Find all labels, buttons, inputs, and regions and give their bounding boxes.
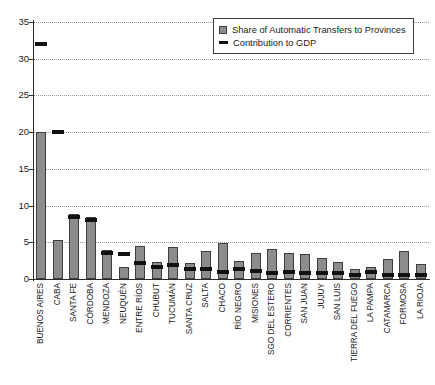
x-axis-tick-label: LA PAMPA bbox=[367, 283, 376, 322]
bar-group bbox=[383, 22, 393, 279]
bar bbox=[86, 217, 96, 279]
x-axis-tick: JUJUY bbox=[314, 281, 331, 385]
y-axis-tick: 20 bbox=[0, 132, 29, 133]
gdp-marker bbox=[365, 270, 377, 274]
x-axis-tick-label: BUENOS AIRES bbox=[37, 283, 46, 344]
x-axis-tick-label: SANTA CRUZ bbox=[186, 283, 195, 334]
x-axis-tick-label: MISIONES bbox=[252, 283, 261, 323]
x-axis-tick: LA RIOJA bbox=[413, 281, 430, 385]
y-axis-tick: 30 bbox=[0, 59, 29, 60]
bar-group bbox=[86, 22, 96, 279]
x-axis-tick: CHUBUT bbox=[149, 281, 166, 385]
gdp-marker bbox=[167, 263, 179, 267]
gdp-marker bbox=[184, 267, 196, 271]
x-axis-tick: SAN LUIS bbox=[330, 281, 347, 385]
x-axis-tick: MENDOZA bbox=[99, 281, 116, 385]
x-axis-tick: CHACO bbox=[215, 281, 232, 385]
bar-group bbox=[168, 22, 178, 279]
y-axis-tick-label: 15 bbox=[18, 164, 29, 174]
bar-group bbox=[201, 22, 211, 279]
y-axis-tick-label: 30 bbox=[18, 54, 29, 64]
legend-bar-swatch-icon bbox=[219, 26, 227, 34]
x-axis-tick-label: CHACO bbox=[219, 283, 228, 313]
x-axis-tick-label: NEUQUÉN bbox=[120, 283, 129, 324]
bar-group bbox=[366, 22, 376, 279]
y-axis-tick-label: 35 bbox=[18, 17, 29, 27]
gdp-marker bbox=[299, 271, 311, 275]
gdp-marker bbox=[382, 273, 394, 277]
bar-group bbox=[102, 22, 112, 279]
bar bbox=[251, 253, 261, 279]
bar-group bbox=[36, 22, 46, 279]
gdp-marker bbox=[415, 273, 427, 277]
bar-group bbox=[185, 22, 195, 279]
bar-group bbox=[69, 22, 79, 279]
x-axis-tick: CORRIENTES bbox=[281, 281, 298, 385]
gdp-marker bbox=[398, 273, 410, 277]
y-axis-tick: 0 bbox=[0, 279, 29, 280]
x-axis-tick-label: SALTA bbox=[202, 283, 211, 308]
x-axis-tick: TUCUMÁN bbox=[165, 281, 182, 385]
x-axis-tick: CABA bbox=[50, 281, 67, 385]
bar-group bbox=[119, 22, 129, 279]
bar-group bbox=[284, 22, 294, 279]
bar-group bbox=[53, 22, 63, 279]
gdp-marker bbox=[35, 42, 47, 46]
gdp-marker bbox=[266, 271, 278, 275]
gdp-marker bbox=[85, 218, 97, 222]
y-axis-tick-label: 25 bbox=[18, 90, 29, 100]
gdp-marker bbox=[283, 270, 295, 274]
bar bbox=[53, 240, 63, 279]
x-axis-tick-label: SAN JUAN bbox=[301, 283, 310, 324]
y-axis-tick: 25 bbox=[0, 95, 29, 96]
y-axis-tick: 35 bbox=[0, 22, 29, 23]
gdp-marker bbox=[118, 252, 130, 256]
gdp-marker bbox=[349, 273, 361, 277]
bar-group bbox=[350, 22, 360, 279]
x-axis-tick-label: FORMOSA bbox=[400, 283, 409, 324]
y-axis-tick: 5 bbox=[0, 242, 29, 243]
bar-group bbox=[399, 22, 409, 279]
legend-item: Contribution to GDP bbox=[219, 36, 406, 49]
x-axis-tick-label: SAN LUIS bbox=[334, 283, 343, 320]
x-axis-tick-label: ENTRE RÍOS bbox=[136, 283, 145, 333]
x-axis-tick: NEUQUÉN bbox=[116, 281, 133, 385]
x-axis-tick: SANTA FE bbox=[66, 281, 83, 385]
x-axis-tick: SANTA CRUZ bbox=[182, 281, 199, 385]
y-axis-tick: 15 bbox=[0, 169, 29, 170]
x-axis-tick: SAN JUAN bbox=[297, 281, 314, 385]
x-axis-tick: LA PAMPA bbox=[363, 281, 380, 385]
bar bbox=[317, 258, 327, 279]
bar-group bbox=[267, 22, 277, 279]
x-axis-tick-label: MENDOZA bbox=[103, 283, 112, 324]
gdp-marker bbox=[217, 270, 229, 274]
gdp-marker bbox=[151, 265, 163, 269]
legend-line-swatch-icon bbox=[219, 41, 228, 44]
x-axis-tick-label: CORRIENTES bbox=[285, 283, 294, 337]
legend-item-label: Share of Automatic Transfers to Province… bbox=[232, 25, 406, 35]
x-axis-tick-label: TIERRA DEL FUEGO bbox=[351, 283, 360, 362]
x-axis-tick-label: SANTA FE bbox=[70, 283, 79, 322]
gdp-marker bbox=[52, 130, 64, 134]
bar bbox=[36, 132, 46, 279]
bar bbox=[119, 267, 129, 279]
x-axis-tick: SGO DEL ESTERO bbox=[264, 281, 281, 385]
x-axis-tick-label: JUJUY bbox=[318, 283, 327, 308]
gdp-marker bbox=[101, 251, 113, 255]
x-axis-labels: BUENOS AIRESCABASANTA FECÓRDOBAMENDOZANE… bbox=[33, 281, 429, 385]
x-axis-tick: BUENOS AIRES bbox=[33, 281, 50, 385]
bar-group bbox=[416, 22, 426, 279]
bar bbox=[300, 254, 310, 279]
bar-group bbox=[333, 22, 343, 279]
bar bbox=[201, 251, 211, 279]
bar-group bbox=[218, 22, 228, 279]
x-axis-tick: RÍO NEGRO bbox=[231, 281, 248, 385]
gdp-marker bbox=[68, 215, 80, 219]
x-axis-tick-label: CÓRDOBA bbox=[87, 283, 96, 324]
chart-legend: Share of Automatic Transfers to Province… bbox=[213, 18, 414, 54]
gdp-marker bbox=[332, 271, 344, 275]
bar-group bbox=[135, 22, 145, 279]
bar-group bbox=[300, 22, 310, 279]
x-axis-tick: FORMOSA bbox=[396, 281, 413, 385]
x-axis-tick: CÓRDOBA bbox=[83, 281, 100, 385]
